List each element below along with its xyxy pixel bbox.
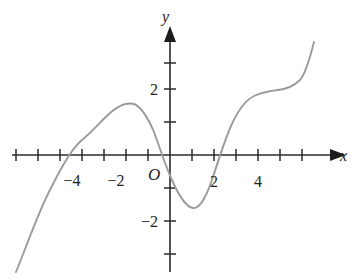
- coordinate-plot: y x O −4 −2 2 4 2 −2: [0, 0, 362, 280]
- y-tick-label-2: 2: [150, 81, 158, 98]
- x-tick-label--4: −4: [63, 172, 80, 189]
- x-axis-label: x: [339, 147, 347, 164]
- x-tick-label-4: 4: [254, 173, 262, 190]
- y-tick-label--2: −2: [141, 213, 158, 230]
- graph-figure: y x O −4 −2 2 4 2 −2: [0, 0, 362, 280]
- origin-label: O: [148, 165, 160, 184]
- y-axis-label: y: [160, 8, 170, 26]
- x-tick-label--2: −2: [107, 172, 124, 189]
- y-axis-arrowhead: [164, 26, 176, 42]
- x-tick-label-2: 2: [210, 173, 218, 190]
